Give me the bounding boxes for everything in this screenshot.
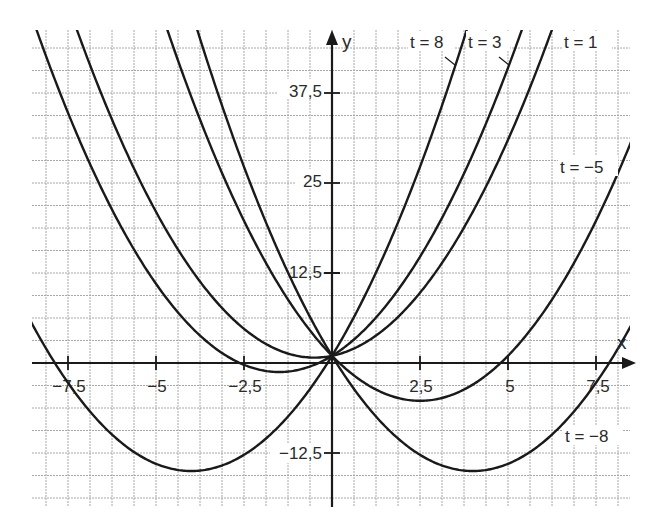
curve-label-t8: t = 8 [410,33,444,52]
y-tick-label: −12,5 [279,444,322,463]
x-tick-label: −2,5 [228,377,262,396]
x-tick-label: 5 [505,377,514,396]
axes [32,30,636,507]
x-axis-label: x [617,332,627,353]
y-axis-arrow-icon [326,30,338,45]
y-tick-label: 12,5 [289,263,322,282]
y-tick-label: 37,5 [289,82,322,101]
curve-label-tm5: t = −5 [560,158,603,177]
curve-label-tm8: t = −8 [565,427,608,446]
x-tick-label: −5 [147,377,166,396]
curve-label-t3: t = 3 [468,33,502,52]
function-family-chart: −7,5 −5 −2,5 2,5 5 7,5 37,5 25 12,5 −12,… [0,0,655,519]
curve-label-t1: t = 1 [564,33,598,52]
y-tick-label: 25 [303,172,322,191]
x-tick-label: 2,5 [409,377,433,396]
leader-line-t8 [445,57,455,65]
x-tick-label: −7,5 [52,377,86,396]
x-axis-arrow-icon [622,357,636,369]
y-axis-label: y [342,31,352,52]
